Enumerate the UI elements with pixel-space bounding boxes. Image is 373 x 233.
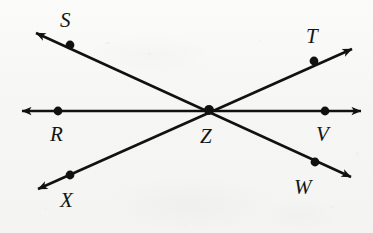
line-X-Z-T [38, 49, 352, 189]
point-dot-Z [204, 105, 214, 115]
geometry-diagram: S T R Z V X W [0, 0, 373, 233]
line-S-Z-W [36, 33, 351, 177]
point-label-S: S [60, 10, 71, 31]
point-dot-R [54, 107, 63, 116]
scan-speck [356, 152, 359, 155]
point-label-R: R [50, 124, 63, 145]
point-label-X: X [60, 190, 73, 211]
scan-speck [105, 42, 110, 44]
point-dot-W [311, 158, 320, 167]
point-dot-T [310, 57, 319, 66]
point-dot-X [66, 171, 75, 180]
point-dot-V [321, 107, 330, 116]
point-label-V: V [316, 124, 329, 145]
point-label-Z: Z [200, 126, 212, 147]
scan-speck [148, 53, 151, 55]
scan-speck [330, 206, 334, 208]
point-dot-S [66, 41, 75, 50]
point-label-T: T [306, 26, 318, 47]
point-label-W: W [294, 177, 312, 198]
scan-speck [183, 223, 187, 225]
scan-speck [44, 208, 47, 210]
lines-group [22, 33, 361, 189]
scan-speck [258, 40, 261, 42]
